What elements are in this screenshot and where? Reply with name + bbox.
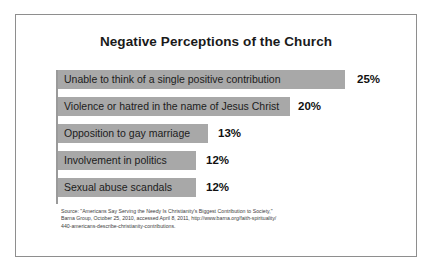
bar-label: Violence or hatred in the name of Jesus … — [64, 97, 279, 116]
chart-title: Negative Perceptions of the Church — [0, 34, 432, 49]
bar-value: 25% — [357, 70, 380, 89]
bar-label: Opposition to gay marriage — [64, 124, 190, 143]
source-line-1: Source: "Americans Say Serving the Needy… — [61, 208, 381, 215]
source-line-3: 440-americans-describe-christianity-cont… — [61, 223, 381, 230]
bar-label: Unable to think of a single positive con… — [64, 70, 281, 89]
bar-label: Involvement in politics — [64, 151, 167, 170]
bar-value: 12% — [206, 178, 229, 197]
bar-label: Sexual abuse scandals — [64, 178, 172, 197]
bar-chart-plot-area: Unable to think of a single positive con… — [56, 70, 396, 204]
source-line-2: Barna Group, October 25, 2010, accessed … — [61, 215, 381, 222]
source-citation: Source: "Americans Say Serving the Needy… — [61, 208, 381, 230]
chart-figure: Negative Perceptions of the Church Unabl… — [0, 0, 432, 270]
bar-value: 13% — [218, 124, 241, 143]
bar-value: 20% — [298, 97, 321, 116]
bar-value: 12% — [206, 151, 229, 170]
